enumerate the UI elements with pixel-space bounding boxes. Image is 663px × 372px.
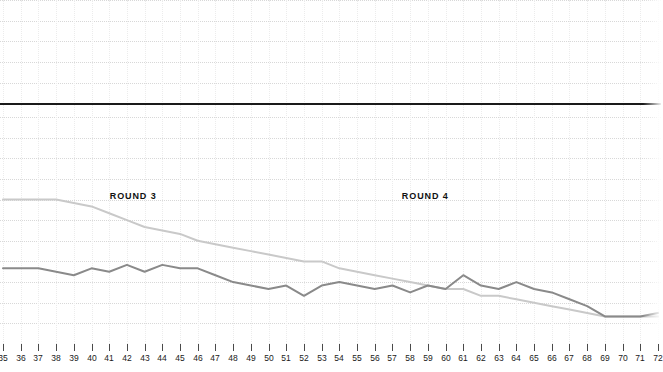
series-layer [0,0,661,344]
series-line-light [3,200,658,317]
axis-tick [428,344,429,351]
axis-tick [127,344,128,351]
axis-tick-label: 41 [104,353,113,363]
axis-tick [286,344,287,351]
annotation-round-4: ROUND 4 [402,191,449,201]
axis-tick [109,344,110,351]
axis-tick [481,344,482,351]
axis-tick-label: 47 [210,353,219,363]
axis-tick-label: 63 [494,353,503,363]
axis-tick-label: 56 [370,353,379,363]
axis-tick-label: 42 [122,353,131,363]
axis-tick-label: 43 [140,353,149,363]
axis-tick [605,344,606,351]
axis-tick-label: 69 [600,353,609,363]
axis-tick [463,344,464,351]
axis-tick [499,344,500,351]
axis-tick [233,344,234,351]
axis-tick-label: 38 [51,353,60,363]
axis-tick [251,344,252,351]
axis-tick [304,344,305,351]
axis-tick [145,344,146,351]
axis-tick [534,344,535,351]
axis-tick-label: 55 [352,353,361,363]
axis-tick [21,344,22,351]
axis-tick-label: 61 [458,353,467,363]
axis-tick [339,344,340,351]
axis-tick [392,344,393,351]
axis-tick [269,344,270,351]
axis-tick-label: 72 [653,353,662,363]
plot-area: ROUND 3 ROUND 4 [0,0,661,344]
axis-tick-label: 44 [157,353,166,363]
axis-tick-label: 46 [193,353,202,363]
axis-tick-label: 52 [299,353,308,363]
axis-tick [3,344,4,351]
axis-tick [56,344,57,351]
axis-tick-label: 57 [387,353,396,363]
axis-tick-label: 36 [16,353,25,363]
series-line-dark [3,265,658,317]
axis-tick [640,344,641,351]
axis-tick [74,344,75,351]
axis-tick [410,344,411,351]
axis-tick [587,344,588,351]
axis-tick [180,344,181,351]
axis-tick-label: 62 [476,353,485,363]
axis-tick-label: 68 [582,353,591,363]
annotation-round-3: ROUND 3 [110,191,157,201]
axis-tick [658,344,659,351]
axis-tick-label: 48 [228,353,237,363]
axis-tick [516,344,517,351]
axis-tick-label: 58 [405,353,414,363]
axis-tick-label: 37 [33,353,42,363]
axis-tick [92,344,93,351]
axis-tick [215,344,216,351]
axis-tick [162,344,163,351]
axis-tick-label: 60 [441,353,450,363]
axis-tick [357,344,358,351]
axis-tick [552,344,553,351]
axis-tick-label: 40 [87,353,96,363]
axis-tick-label: 70 [618,353,627,363]
axis-tick-label: 59 [423,353,432,363]
axis-tick-label: 45 [175,353,184,363]
x-axis: 3536373839404142434445464748495051525354… [0,344,661,372]
axis-tick-label: 51 [281,353,290,363]
axis-tick-label: 67 [564,353,573,363]
axis-tick-label: 53 [317,353,326,363]
axis-tick-label: 39 [69,353,78,363]
axis-tick-label: 66 [547,353,556,363]
axis-tick [569,344,570,351]
axis-tick-label: 49 [246,353,255,363]
axis-tick-label: 65 [529,353,538,363]
axis-tick-label: 54 [334,353,343,363]
axis-tick [623,344,624,351]
axis-tick [322,344,323,351]
axis-tick-label: 64 [511,353,520,363]
axis-tick [38,344,39,351]
axis-tick [446,344,447,351]
axis-tick-label: 35 [0,353,8,363]
axis-tick-label: 71 [635,353,644,363]
axis-tick [375,344,376,351]
axis-tick [198,344,199,351]
axis-tick-label: 50 [264,353,273,363]
